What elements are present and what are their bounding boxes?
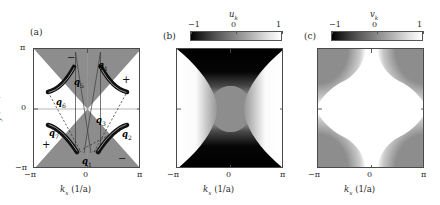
panel-b-colorbar-title: uk (229, 9, 238, 21)
panel-a-ytick-pi: π (20, 43, 25, 52)
q-label-q1: q1 (98, 60, 108, 72)
panel-c-ctick-neg1: −1 (329, 20, 341, 29)
colorbar-tickmark (282, 31, 283, 34)
panel-a-xtick-pi: π (137, 170, 142, 179)
q-label-q2: q2 (122, 129, 132, 141)
gap-sign-minus-top: − (67, 52, 75, 63)
colorbar-tickmark (236, 31, 237, 34)
panel-c-colorbar-title: vk (370, 9, 378, 21)
panel-c-heatmap (318, 49, 424, 168)
q-label-q5: q5 (74, 77, 84, 89)
panel-b-heatmap (177, 49, 283, 168)
q-label-q6: q6 (56, 97, 66, 109)
panel-b-label: (b) (163, 31, 176, 41)
panel-a-graphics (34, 49, 140, 168)
panel-b-ctick-0: 0 (231, 20, 236, 29)
panel-a-plot: − + + − q1 q2 q3 q5 q6 q7 q1 (33, 48, 140, 168)
panel-a-xaxis-title: kx (1/a) (60, 184, 91, 196)
panel-a-ytick-zero: 0 (21, 103, 26, 112)
panel-b-ctick-neg1: −1 (188, 20, 200, 29)
panel-c-xtick-negpi: −π (308, 170, 320, 179)
panel-b-plot (176, 48, 283, 168)
panel-b-xtick-zero: 0 (226, 170, 231, 179)
q-label-q3: q3 (96, 115, 106, 127)
q-label-q1-bottom: q1 (82, 156, 92, 168)
panel-a-yaxis-title: ky (1/a) (0, 95, 2, 126)
gap-sign-plus-right: + (122, 74, 130, 85)
panel-c-xtick-pi: π (421, 170, 426, 179)
panel-b-ctick-1: 1 (276, 20, 281, 29)
panel-c-label: (c) (304, 31, 316, 41)
figure-canvas: (a) (0, 0, 440, 205)
panel-a-label: (a) (30, 27, 42, 37)
panel-b-xaxis-title: kx (1/a) (203, 184, 234, 196)
panel-a-xtick-negpi: −π (24, 170, 36, 179)
panel-b-xtick-pi: π (280, 170, 285, 179)
colorbar-tickmark (377, 31, 378, 34)
panel-c-ctick-1: 1 (417, 20, 422, 29)
ub-gray-center (214, 86, 247, 132)
colorbar-tickmark (332, 31, 333, 34)
panel-c-ctick-0: 0 (372, 20, 377, 29)
panel-b-colorbar (190, 31, 282, 41)
panel-c-colorbar (331, 31, 423, 41)
colorbar-tickmark (191, 31, 192, 34)
colorbar-tickmark (423, 31, 424, 34)
gap-sign-plus-left: + (42, 139, 50, 150)
gap-sign-minus-bottom: − (118, 153, 126, 164)
panel-b-xtick-negpi: −π (167, 170, 179, 179)
panel-c-xtick-zero: 0 (367, 170, 372, 179)
panel-a-xtick-zero: 0 (83, 170, 88, 179)
panel-c-plot (317, 48, 424, 168)
panel-c-xaxis-title: kx (1/a) (344, 184, 375, 196)
q-label-q7: q7 (49, 128, 59, 140)
